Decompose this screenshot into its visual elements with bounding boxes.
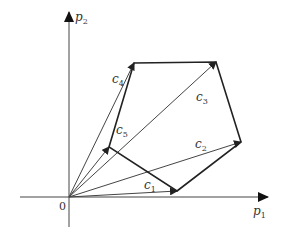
label-c4-main: c (112, 72, 119, 86)
x-axis-label-sub: 1 (261, 211, 266, 220)
y-axis-label-main: p (75, 10, 83, 24)
vector-c5 (69, 147, 109, 197)
label-c5: c5 (116, 124, 128, 139)
label-c5-main: c (116, 123, 123, 137)
diagram-canvas (0, 0, 282, 237)
convex-polygon (109, 62, 241, 191)
label-c3: c3 (196, 91, 208, 106)
label-c3-sub: 3 (203, 97, 208, 106)
label-c1: c1 (144, 179, 156, 194)
y-axis-label-sub: 2 (83, 17, 88, 26)
x-axis-label: p1 (253, 205, 266, 220)
label-c2-sub: 2 (202, 144, 207, 153)
label-c1-main: c (144, 178, 151, 192)
x-axis-label-main: p (253, 204, 261, 218)
label-c3-main: c (196, 90, 203, 104)
label-c2: c2 (195, 138, 207, 153)
origin-label: 0 (59, 201, 66, 212)
label-c4: c4 (112, 73, 124, 88)
label-c5-sub: 5 (123, 130, 128, 139)
label-c2-main: c (195, 137, 202, 151)
label-c4-sub: 4 (119, 79, 124, 88)
label-c1-sub: 1 (151, 185, 156, 194)
vector-c3 (69, 62, 216, 197)
y-axis-label: p2 (75, 11, 88, 26)
